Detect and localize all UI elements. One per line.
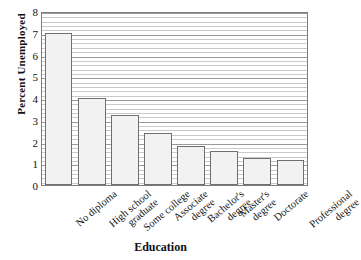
y-tick-6: 6: [20, 50, 38, 61]
bar-series: [42, 13, 307, 185]
bar-slot: [108, 13, 141, 185]
bar: [111, 115, 139, 185]
y-tick-8: 8: [20, 7, 38, 18]
y-tick-4: 4: [20, 94, 38, 105]
y-axis-tick-labels: 012345678: [20, 0, 38, 260]
bar-slot: [175, 13, 208, 185]
bar: [243, 158, 271, 185]
y-tick-7: 7: [20, 28, 38, 39]
bar: [144, 133, 172, 185]
y-tick-5: 5: [20, 72, 38, 83]
bar: [78, 98, 106, 185]
x-axis-title: Education: [0, 240, 321, 255]
bar-slot: [75, 13, 108, 185]
bar: [210, 151, 238, 185]
bar-slot: [141, 13, 174, 185]
x-axis-tick-labels: No diplomaHigh schoolgraduateSome colleg…: [41, 188, 308, 244]
bar: [177, 146, 205, 185]
bar-slot: [274, 13, 307, 185]
bar-slot: [208, 13, 241, 185]
y-tick-0: 0: [20, 181, 38, 192]
bar: [45, 33, 73, 185]
y-tick-2: 2: [20, 137, 38, 148]
x-tick-label: Professionaldegree: [307, 188, 361, 238]
y-tick-3: 3: [20, 115, 38, 126]
bar-slot: [241, 13, 274, 185]
y-tick-1: 1: [20, 159, 38, 170]
plot-area: [41, 12, 308, 186]
bar-slot: [42, 13, 75, 185]
bar: [277, 160, 305, 185]
